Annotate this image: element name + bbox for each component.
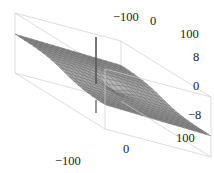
z-axis-tick-neg8: −8: [188, 108, 201, 122]
surface-mesh: [15, 34, 211, 136]
z-axis-tick-8: 8: [193, 50, 199, 64]
top-axis-tick-100: 100: [180, 27, 199, 41]
bottom-axis-tick-neg100: −100: [55, 154, 81, 168]
surface-plot: −100 0 100 8 0 −8 100 0 −100: [0, 0, 214, 173]
z-axis-tick-0: 0: [193, 79, 199, 93]
top-axis-tick-neg100: −100: [113, 10, 139, 24]
bottom-axis-tick-0: 0: [123, 142, 129, 156]
top-axis-tick-0: 0: [150, 14, 156, 28]
plot-canvas: −100 0 100 8 0 −8 100 0 −100: [0, 0, 214, 173]
bottom-axis-tick-100: 100: [176, 131, 195, 145]
